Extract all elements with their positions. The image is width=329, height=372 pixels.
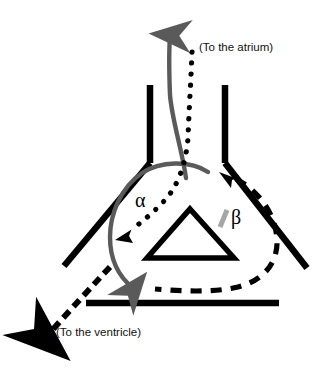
- label-alpha: α: [135, 190, 145, 210]
- vessel-walls: [64, 85, 307, 303]
- label-to-the-atrium: (To the atrium): [199, 41, 273, 54]
- gray-outflow-arrow-to-atrium: [169, 36, 186, 178]
- vessel-valve-diagram: [0, 0, 329, 372]
- central-triangle-valve: [147, 209, 234, 258]
- diagram-canvas: (To the atrium) (To the ventricle) α β: [0, 0, 329, 372]
- beta-tick-mark: [220, 210, 227, 227]
- gray-loop-to-ventricle-arrow: [110, 163, 208, 288]
- label-beta: β: [231, 207, 241, 227]
- label-to-the-ventricle: (To the ventricle): [56, 326, 141, 339]
